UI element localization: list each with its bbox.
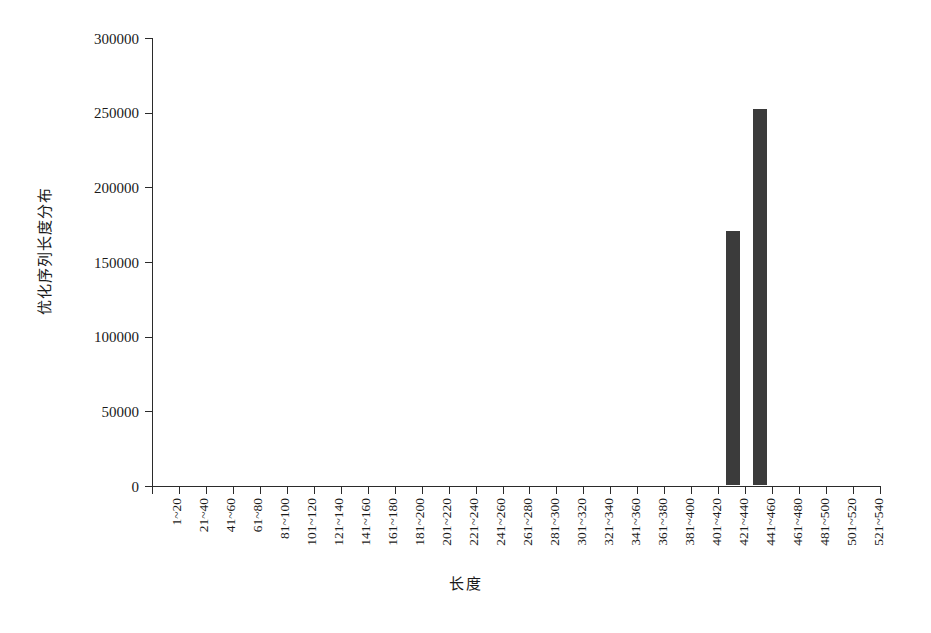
x-axis-tick-label: 161~180 bbox=[386, 498, 400, 546]
x-axis-tick-label: 181~200 bbox=[413, 498, 427, 546]
y-axis-tick-label: 250000 bbox=[94, 106, 139, 121]
x-axis-tick-label: 241~260 bbox=[494, 498, 508, 546]
x-axis-tick-label: 281~300 bbox=[548, 498, 562, 546]
x-axis-tick-label: 221~240 bbox=[467, 498, 481, 546]
y-axis-tick-label: 0 bbox=[132, 479, 140, 494]
x-axis-tick bbox=[610, 487, 611, 494]
y-axis-tick-label: 150000 bbox=[94, 255, 139, 270]
x-axis-tick bbox=[853, 487, 854, 494]
x-axis-tick-label: 141~160 bbox=[359, 498, 373, 546]
x-axis-tick bbox=[287, 487, 288, 494]
x-axis-title-text: 长度 bbox=[449, 576, 483, 592]
x-axis-tick-label: 101~120 bbox=[305, 498, 319, 546]
x-axis-tick bbox=[637, 487, 638, 494]
y-axis-tick: 250000 bbox=[145, 113, 152, 114]
y-axis-tick-label: 300000 bbox=[94, 31, 139, 46]
x-axis-tick bbox=[503, 487, 504, 494]
y-axis-tick: 100000 bbox=[145, 337, 152, 338]
x-axis-tick-label: 21~40 bbox=[197, 498, 211, 532]
x-axis-tick-label: 381~400 bbox=[683, 498, 697, 546]
y-axis-tick: 50000 bbox=[145, 411, 152, 412]
y-axis-tick-label: 200000 bbox=[94, 180, 139, 195]
x-axis-tick bbox=[476, 487, 477, 494]
chart-container: 优化序列长度分布 0500001000001500002000002500003… bbox=[0, 0, 931, 633]
y-axis-tick: 300000 bbox=[145, 38, 152, 39]
x-axis-tick-label: 61~80 bbox=[251, 498, 265, 532]
y-axis-tick: 0 bbox=[145, 486, 152, 487]
x-axis-tick bbox=[718, 487, 719, 494]
x-axis-tick bbox=[664, 487, 665, 494]
x-axis-tick bbox=[772, 487, 773, 494]
x-axis-tick-label: 81~100 bbox=[278, 498, 292, 539]
x-axis-tick-label: 41~60 bbox=[224, 498, 238, 532]
x-axis-tick bbox=[529, 487, 530, 494]
x-axis-tick-label: 481~500 bbox=[818, 498, 832, 546]
x-axis-tick bbox=[368, 487, 369, 494]
x-axis-tick bbox=[314, 487, 315, 494]
x-axis-tick bbox=[449, 487, 450, 494]
y-axis-tick: 150000 bbox=[145, 262, 152, 263]
x-axis-tick-label: 441~460 bbox=[764, 498, 778, 546]
y-axis-tick-label: 100000 bbox=[94, 330, 139, 345]
x-axis-tick bbox=[152, 487, 153, 494]
bar bbox=[726, 231, 740, 485]
x-axis-tick bbox=[233, 487, 234, 494]
x-axis-tick-label: 121~140 bbox=[332, 498, 346, 546]
y-axis-line bbox=[152, 38, 153, 487]
x-axis-tick bbox=[422, 487, 423, 494]
x-axis-tick-label: 341~360 bbox=[629, 498, 643, 546]
x-axis-tick-label: 501~520 bbox=[845, 498, 859, 546]
x-axis-tick bbox=[799, 487, 800, 494]
x-axis-tick-label: 201~220 bbox=[440, 498, 454, 546]
x-axis-tick bbox=[583, 487, 584, 494]
x-axis-title: 长度 bbox=[0, 572, 931, 593]
x-axis-tick bbox=[260, 487, 261, 494]
x-axis-tick bbox=[826, 487, 827, 494]
y-axis-title-text: 优化序列长度分布 bbox=[33, 186, 54, 314]
x-axis-tick-label: 301~320 bbox=[575, 498, 589, 546]
x-axis-tick bbox=[880, 487, 881, 494]
y-axis-title: 优化序列长度分布 bbox=[28, 0, 58, 500]
plot-area: 050000100000150000200000250000300000 1~2… bbox=[152, 38, 880, 486]
y-axis-tick-label: 50000 bbox=[102, 404, 140, 419]
x-axis-tick-label: 421~440 bbox=[737, 498, 751, 546]
x-axis-tick-label: 521~540 bbox=[872, 498, 886, 546]
x-axis-tick-label: 461~480 bbox=[791, 498, 805, 546]
x-axis-tick-label: 1~20 bbox=[170, 498, 184, 526]
x-axis-tick bbox=[556, 487, 557, 494]
x-axis-tick-label: 401~420 bbox=[710, 498, 724, 546]
x-axis-tick-label: 261~280 bbox=[521, 498, 535, 546]
x-axis-tick bbox=[745, 487, 746, 494]
x-axis-tick bbox=[179, 487, 180, 494]
y-axis-tick: 200000 bbox=[145, 187, 152, 188]
x-axis-tick bbox=[691, 487, 692, 494]
x-axis-tick bbox=[206, 487, 207, 494]
x-axis-tick bbox=[341, 487, 342, 494]
x-axis-tick-label: 361~380 bbox=[656, 498, 670, 546]
bar bbox=[753, 109, 767, 485]
x-axis-tick bbox=[395, 487, 396, 494]
x-axis-tick-label: 321~340 bbox=[602, 498, 616, 546]
